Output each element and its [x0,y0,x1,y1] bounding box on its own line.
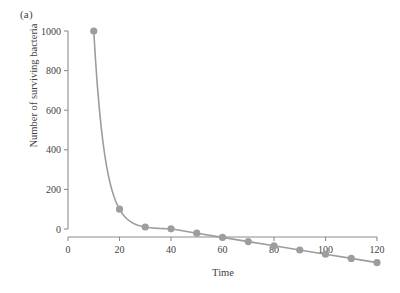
data-series-group [90,27,380,266]
data-point [348,255,355,262]
data-point [296,246,303,253]
figure-panel: (a) Number of surviving bacteria Time 02… [0,0,400,293]
y-tick-label: 600 [46,105,61,116]
y-tick-label: 400 [46,144,61,155]
series-markers [90,27,380,266]
data-point [142,223,149,230]
data-point [322,251,329,258]
y-tick-label: 0 [56,224,61,235]
data-point [167,225,174,232]
y-tick-label: 1000 [41,26,61,37]
data-point [373,259,380,266]
x-tick-labels: 020406080100120 [66,244,385,255]
x-tick-label: 120 [370,244,385,255]
data-point [116,206,123,213]
y-tick-label: 200 [46,184,61,195]
data-point [245,238,252,245]
series-line [94,31,377,263]
x-tick-label: 60 [218,244,228,255]
data-point [219,234,226,241]
y-tick-marks [64,31,68,229]
data-point [90,27,97,34]
y-tick-label: 800 [46,65,61,76]
x-tick-label: 0 [66,244,71,255]
x-tick-label: 40 [166,244,176,255]
y-tick-labels: 02004006008001000 [41,26,61,235]
data-point [193,230,200,237]
plot-canvas: 02004006008001000 020406080100120 [0,0,400,293]
data-point [270,242,277,249]
x-tick-label: 20 [115,244,125,255]
y-axis-group: 02004006008001000 [41,26,68,235]
